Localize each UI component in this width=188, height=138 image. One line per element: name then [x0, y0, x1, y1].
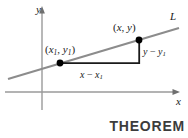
rise-label: y − y1 — [143, 47, 166, 58]
point-xy-label: (x, y) — [113, 22, 136, 33]
point-xy-dot — [136, 37, 143, 44]
line-L-label: L — [170, 11, 176, 22]
point-x1y1-dot — [57, 60, 64, 67]
x-axis — [5, 89, 180, 95]
theorem-caption: THEOREM — [109, 118, 185, 134]
point-x1y1-label: (x1, y1) — [45, 44, 75, 56]
rise-subscript: 1 — [163, 50, 166, 57]
y-axis — [39, 6, 45, 110]
x-axis-label: x — [176, 96, 181, 107]
run-minus-sign: − — [84, 69, 95, 80]
run-subscript: 1 — [100, 73, 103, 80]
run-label: x − x1 — [80, 70, 103, 81]
slope-theorem-figure: y x L (x, y) (x1, y1) y − y1 x − x1 THEO… — [0, 0, 188, 138]
y-axis-label: y — [36, 4, 41, 15]
rise-minus-sign: − — [147, 46, 158, 57]
point-xy-close-paren: ) — [132, 21, 136, 33]
point-x1y1-close-paren: ) — [71, 43, 75, 55]
